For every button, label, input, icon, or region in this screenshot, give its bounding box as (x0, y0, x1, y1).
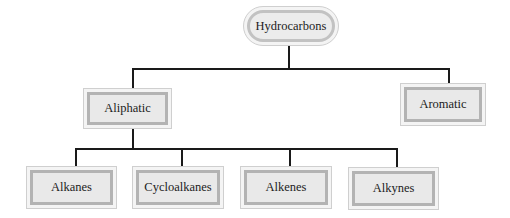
connector-to-alkanes (75, 148, 77, 167)
node-alkynes: Alkynes (348, 167, 439, 210)
connector-to-alkynes (396, 148, 398, 167)
node-label: Hydrocarbons (256, 19, 327, 34)
connector-to-cycloalkanes (181, 148, 183, 167)
node-label: Aromatic (419, 97, 466, 112)
node-alkenes: Alkenes (240, 166, 332, 209)
node-label: Aliphatic (104, 101, 151, 116)
node-alkanes: Alkanes (26, 166, 117, 209)
node-label: Alkenes (266, 180, 307, 195)
node-aliphatic: Aliphatic (83, 88, 172, 129)
node-cycloalkanes: Cycloalkanes (132, 166, 224, 209)
node-label: Cycloalkanes (144, 180, 211, 195)
connector-to-aromatic (448, 68, 450, 84)
connector-level2-horizontal (75, 148, 398, 150)
connector-aliphatic-down (132, 128, 134, 150)
connector-to-alkenes (289, 148, 291, 167)
node-label: Alkynes (373, 181, 415, 196)
connector-level1-horizontal (132, 68, 450, 70)
node-aromatic: Aromatic (400, 83, 486, 126)
node-label: Alkanes (51, 180, 92, 195)
connector-root-down (288, 44, 290, 70)
node-hydrocarbons: Hydrocarbons (243, 6, 339, 46)
connector-to-aliphatic (132, 68, 134, 89)
